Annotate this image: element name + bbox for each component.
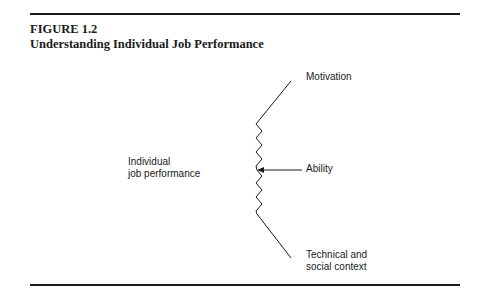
- factor-motivation: Motivation: [306, 71, 352, 83]
- factor-context-line1: Technical and: [306, 249, 367, 261]
- bottom-rule: [30, 284, 460, 286]
- context-line: [257, 214, 291, 258]
- motivation-line: [256, 81, 291, 124]
- factor-ability: Ability: [306, 163, 333, 175]
- diagram-lines: [0, 0, 490, 298]
- outcome-line2: job performance: [128, 168, 200, 180]
- arrowhead-icon: [257, 167, 264, 173]
- outcome-line1: Individual: [128, 156, 170, 168]
- factor-context-line2: social context: [306, 261, 367, 273]
